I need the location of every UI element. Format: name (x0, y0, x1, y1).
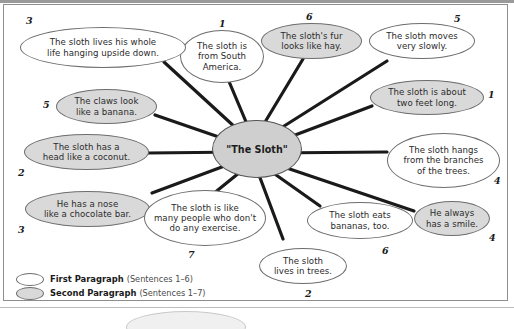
legend-first-paragraph-note: (Sentences 1–6) (127, 274, 193, 284)
node-eats-bananas-number: 6 (382, 245, 389, 256)
node-fur-like-hay-text: The sloth's fur looks like hay. (281, 31, 343, 51)
node-eats-bananas[interactable]: The sloth eats bananas, too. (307, 202, 413, 239)
node-no-exercise-number: 7 (188, 249, 195, 260)
node-no-exercise[interactable]: The sloth is like many people who don't … (144, 190, 266, 246)
node-moves-slowly[interactable]: The sloth moves very slowly. (369, 23, 475, 59)
legend-swatch-gray-oval-icon (16, 287, 44, 300)
node-head-coconut-text: The sloth has a head like a coconut. (43, 142, 131, 162)
node-lives-in-trees-text: The sloth lives in trees. (274, 256, 332, 276)
node-nose-chocolate-number: 3 (18, 224, 25, 235)
node-upside-down-number: 3 (26, 15, 33, 26)
node-eats-bananas-text: The sloth eats bananas, too. (329, 210, 391, 230)
legend: First Paragraph (Sentences 1–6) Second P… (16, 272, 246, 300)
node-nose-chocolate-text: He has a nose like a chocolate bar. (44, 199, 131, 219)
legend-item-second-paragraph: Second Paragraph (Sentences 1–7) (16, 286, 246, 300)
center-node-the-sloth[interactable]: "The Sloth" (212, 120, 302, 178)
node-south-america-text: The sloth is from South America. (197, 41, 247, 71)
node-head-coconut-number: 2 (18, 167, 25, 178)
node-two-feet-long-number: 1 (488, 89, 495, 100)
diagram-page: "The Sloth" The sloth is from South Amer… (0, 0, 514, 329)
node-lives-in-trees-number: 2 (305, 288, 312, 299)
node-hangs-branches-text: The sloth hangs from the branches of the… (403, 145, 483, 175)
node-hangs-branches-number: 4 (494, 175, 501, 186)
node-lives-in-trees[interactable]: The sloth lives in trees. (259, 248, 347, 284)
legend-second-paragraph-label: Second Paragraph (50, 288, 136, 298)
node-claws-banana-text: The claws look like a banana. (75, 96, 139, 116)
legend-first-paragraph-label: First Paragraph (50, 274, 124, 284)
node-two-feet-long-text: The sloth is about two feet long. (388, 87, 466, 107)
clipped-oval-shape (126, 311, 246, 329)
legend-swatch-white-oval-icon (16, 273, 44, 286)
node-upside-down[interactable]: The sloth lives his whole life hanging u… (20, 27, 186, 68)
page-bottom-band (0, 307, 514, 329)
node-no-exercise-text: The sloth is like many people who don't … (154, 203, 256, 233)
legend-second-paragraph-note: (Sentences 1–7) (139, 288, 205, 298)
node-always-smile[interactable]: He always has a smile. (414, 201, 490, 236)
node-fur-like-hay-number: 6 (306, 11, 313, 22)
center-node-label: "The Sloth" (226, 144, 287, 155)
node-upside-down-text: The sloth lives his whole life hanging u… (47, 37, 159, 57)
legend-item-first-paragraph: First Paragraph (Sentences 1–6) (16, 272, 246, 286)
node-south-america-number: 1 (219, 18, 226, 29)
node-claws-banana[interactable]: The claws look like a banana. (56, 89, 157, 124)
node-moves-slowly-text: The sloth moves very slowly. (386, 31, 458, 51)
node-hangs-branches[interactable]: The sloth hangs from the branches of the… (387, 133, 500, 188)
node-south-america[interactable]: The sloth is from South America. (180, 30, 264, 83)
node-two-feet-long[interactable]: The sloth is about two feet long. (370, 80, 484, 115)
page-top-rule (0, 0, 514, 3)
node-fur-like-hay[interactable]: The sloth's fur looks like hay. (261, 23, 362, 59)
node-claws-banana-number: 5 (43, 99, 50, 110)
node-nose-chocolate[interactable]: He has a nose like a chocolate bar. (25, 191, 150, 227)
node-always-smile-number: 4 (489, 232, 496, 243)
node-moves-slowly-number: 5 (454, 13, 461, 24)
node-always-smile-text: He always has a smile. (426, 208, 478, 228)
node-head-coconut[interactable]: The sloth has a head like a coconut. (24, 134, 149, 170)
